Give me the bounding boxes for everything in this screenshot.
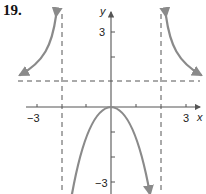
- x-tick-label-3: 3: [183, 112, 189, 124]
- x-tick-label-neg3: −3: [27, 112, 40, 124]
- y-axis-label: y: [99, 5, 107, 17]
- y-tick-label-3: 3: [99, 26, 105, 38]
- left-branch: [20, 16, 56, 75]
- right-branch: [166, 16, 201, 75]
- axes: [26, 12, 200, 194]
- y-tick-label-neg3: −3: [95, 177, 108, 189]
- x-axis-label: x: [196, 111, 203, 123]
- function-graph: y x 3 −3 −3 3: [0, 0, 206, 194]
